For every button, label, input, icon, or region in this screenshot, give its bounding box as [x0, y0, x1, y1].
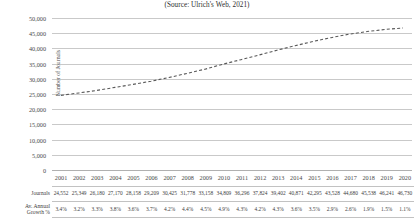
table-cell: 2002	[70, 174, 88, 181]
table-rule-top	[52, 186, 414, 187]
table-cell: 2007	[161, 174, 179, 181]
table-cell: 28,158	[124, 190, 142, 196]
table-cell: 46,730	[396, 190, 414, 196]
table-row-journals: 24,55225,34926,18027,17028,15829,20930,4…	[52, 190, 414, 196]
table-row-label-growth: Av. Annual Growth %	[0, 203, 50, 216]
y-axis-tick-label: 30,000	[0, 75, 46, 82]
table-cell: 2020	[396, 174, 414, 181]
y-axis-tick-label: 50,000	[0, 15, 46, 22]
table-cell: 25,349	[70, 190, 88, 196]
table-cell: 2014	[287, 174, 305, 181]
table-cell: 3.3%	[88, 206, 106, 212]
table-cell: 34,809	[215, 190, 233, 196]
table-cell: 2.6%	[342, 206, 360, 212]
y-axis-tick-label: 15,000	[0, 121, 46, 128]
table-cell: 27,170	[106, 190, 124, 196]
table-cell: 30,425	[161, 190, 179, 196]
y-axis-tick-label: 20,000	[0, 106, 46, 113]
x-axis-baseline	[52, 170, 412, 171]
table-cell: 2013	[269, 174, 287, 181]
table-cell: 33,158	[197, 190, 215, 196]
table-cell: 31,778	[179, 190, 197, 196]
plot-area: 50,00045,00040,00035,00030,00025,00020,0…	[52, 18, 412, 170]
table-cell: 4.2%	[161, 206, 179, 212]
table-cell: 2005	[124, 174, 142, 181]
y-axis-tick-label: 10,000	[0, 136, 46, 143]
table-cell: 4.3%	[269, 206, 287, 212]
table-row-growth: 3.4%3.2%3.3%3.8%3.6%3.7%4.2%4.4%4.5%4.9%…	[52, 206, 414, 212]
table-cell: 2010	[215, 174, 233, 181]
table-cell: 3.8%	[106, 206, 124, 212]
journals-line-series	[52, 18, 412, 170]
y-axis-tick-label: 35,000	[0, 60, 46, 67]
x-axis-year-labels: 2001200220032004200520062007200820092010…	[52, 174, 414, 181]
table-cell: 2.9%	[323, 206, 341, 212]
table-cell: 3.4%	[52, 206, 70, 212]
table-cell: 24,552	[52, 190, 70, 196]
table-cell: 42,295	[305, 190, 323, 196]
table-cell: 26,180	[88, 190, 106, 196]
table-cell: 4.5%	[197, 206, 215, 212]
table-cell: 44,680	[342, 190, 360, 196]
table-cell: 2001	[52, 174, 70, 181]
table-cell: 4.2%	[251, 206, 269, 212]
y-axis-tick-label: 40,000	[0, 45, 46, 52]
journals-growth-figure: (Source: Ulrich's Web, 2021) 50,00045,00…	[0, 0, 414, 224]
y-axis-tick-label: 45,000	[0, 30, 46, 37]
table-cell: 2015	[305, 174, 323, 181]
table-cell: 39,402	[269, 190, 287, 196]
table-cell: 29,209	[142, 190, 160, 196]
table-cell: 2008	[179, 174, 197, 181]
table-cell: 2016	[323, 174, 341, 181]
y-axis-tick-label: 0	[0, 167, 46, 174]
table-rule-mid	[52, 201, 414, 202]
table-cell: 4.4%	[179, 206, 197, 212]
table-cell: 2019	[378, 174, 396, 181]
table-cell: 2003	[88, 174, 106, 181]
table-cell: 3.6%	[287, 206, 305, 212]
table-cell: 4.3%	[233, 206, 251, 212]
table-cell: 3.5%	[305, 206, 323, 212]
table-cell: 1.9%	[360, 206, 378, 212]
table-cell: 37,824	[251, 190, 269, 196]
table-cell: 40,871	[287, 190, 305, 196]
table-row-label-journals: Journals	[0, 190, 50, 196]
table-cell: 45,538	[360, 190, 378, 196]
table-cell: 46,241	[378, 190, 396, 196]
table-cell: 2017	[342, 174, 360, 181]
table-rule-bottom	[52, 217, 414, 218]
table-cell: 36,296	[233, 190, 251, 196]
source-caption: (Source: Ulrich's Web, 2021)	[0, 1, 414, 9]
table-cell: 3.7%	[142, 206, 160, 212]
y-axis-tick-label: 5,000	[0, 151, 46, 158]
table-cell: 2006	[142, 174, 160, 181]
table-cell: 2011	[233, 174, 251, 181]
table-cell: 2012	[251, 174, 269, 181]
table-cell: 2009	[197, 174, 215, 181]
table-cell: 3.2%	[70, 206, 88, 212]
table-cell: 4.9%	[215, 206, 233, 212]
y-axis-tick-label: 25,000	[0, 91, 46, 98]
table-cell: 2018	[360, 174, 378, 181]
table-cell: 1.1%	[396, 206, 414, 212]
table-cell: 3.6%	[124, 206, 142, 212]
table-cell: 1.5%	[378, 206, 396, 212]
table-cell: 2004	[106, 174, 124, 181]
growth-label-line2: Growth %	[0, 209, 50, 215]
table-cell: 43,528	[323, 190, 341, 196]
